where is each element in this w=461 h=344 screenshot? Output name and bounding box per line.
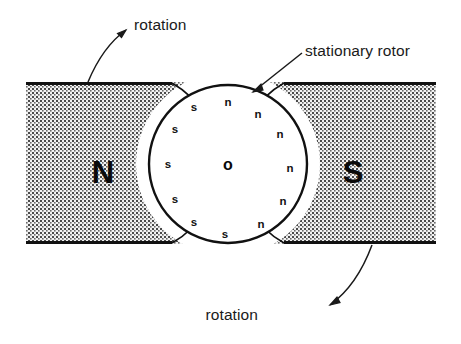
rotor-pole-s-4: s — [172, 193, 178, 205]
pole-label-south: S — [343, 155, 364, 190]
rotor-pole-n-5: n — [279, 195, 286, 207]
rotor-magnet-diagram: N S o s s s s s s s — [0, 0, 461, 344]
rotor-center-label: o — [223, 156, 233, 173]
rotor: o s s s s s s s n n n n n n n — [149, 85, 307, 243]
pole-label-north: N — [92, 155, 114, 190]
rotor-pole-n-4: n — [286, 162, 293, 174]
rotor-pole-n-2: n — [254, 108, 261, 120]
label-rotation-bottom: rotation — [206, 306, 259, 323]
label-stationary-rotor: stationary rotor — [305, 42, 410, 59]
rotor-pole-n-1: n — [224, 96, 231, 108]
rotor-pole-s-5: s — [191, 216, 197, 228]
rotor-pole-s-6: s — [222, 228, 228, 240]
label-rotation-top: rotation — [134, 16, 187, 33]
rotation-bottom-leader — [330, 245, 372, 305]
rotor-pole-s-3: s — [165, 158, 171, 170]
rotation-top-leader — [88, 30, 126, 82]
rotor-pole-s-2: s — [172, 123, 178, 135]
figure-container: N S o s s s s s s s — [0, 0, 461, 344]
rotor-pole-n-3: n — [276, 128, 283, 140]
